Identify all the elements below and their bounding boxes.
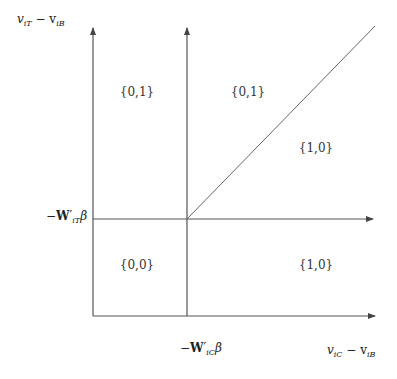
x-threshold-label: −W′iCβ [180,341,222,357]
partition-diagram [0,0,397,379]
x-thr-W: W [190,341,203,355]
region-upper-left: {0,1} [120,85,154,99]
x-thr-beta: β [215,341,222,355]
y-thr-W: W [56,209,69,223]
x-label-mid: − v [342,343,366,357]
region-lower-left: {0,0} [120,258,154,272]
y-label-sub1: iT [24,19,32,28]
region-lower-right: {1,0} [299,258,333,272]
x-axis-label: viC − viB [327,343,375,359]
y-thr-sub: iT [72,216,80,225]
y-axis-label: viT − viB [17,12,65,28]
x-label-v1: v [327,343,334,357]
region-upper-right: {1,0} [299,141,333,155]
y-label-sub2: iB [56,19,64,28]
y-label-v1: v [17,12,24,26]
region-upper-middle: {0,1} [231,85,265,99]
x-thr-minus: − [180,341,190,355]
y-thr-beta: β [80,209,87,223]
x-thr-sub: iC [206,348,215,357]
y-threshold-label: −W′iTβ [46,209,87,225]
diagonal-boundary [187,26,375,219]
y-thr-minus: − [46,209,56,223]
x-label-sub2: iB [367,350,375,359]
y-label-mid: − v [32,12,56,26]
